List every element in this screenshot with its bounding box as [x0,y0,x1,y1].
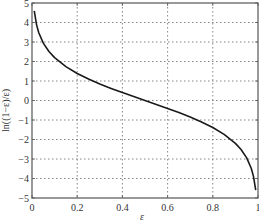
y-tick-label: 3 [24,37,29,48]
x-tick-labels: 00.20.40.60.81 [30,202,260,213]
y-tick-label: −2 [18,134,29,145]
y-tick-label: −1 [18,115,29,126]
x-tick-label: 0.6 [161,202,174,213]
y-tick-labels: −5−4−3−2−1012345 [18,0,29,204]
x-tick-label: 1 [256,202,260,213]
data-curve [34,11,255,190]
x-tick-label: 0.2 [71,202,84,213]
x-tick-label: 0.8 [207,202,220,213]
y-tick-label: −4 [18,173,29,184]
plot-area [34,11,255,190]
y-tick-label: 2 [24,56,29,67]
y-tick-label: 1 [24,76,29,87]
chart: 00.20.40.60.81 −5−4−3−2−1012345 ε ln((1−… [0,0,259,221]
x-axis-label: ε [140,211,144,221]
y-tick-label: 5 [24,0,29,9]
y-tick-label: −5 [18,193,29,204]
x-tick-label: 0 [30,202,35,213]
y-axis-label: ln((1−ε)/ε) [0,89,12,132]
x-tick-label: 0.4 [116,202,129,213]
y-tick-label: 4 [24,17,29,28]
y-tick-label: −3 [18,154,29,165]
y-tick-label: 0 [24,95,29,106]
